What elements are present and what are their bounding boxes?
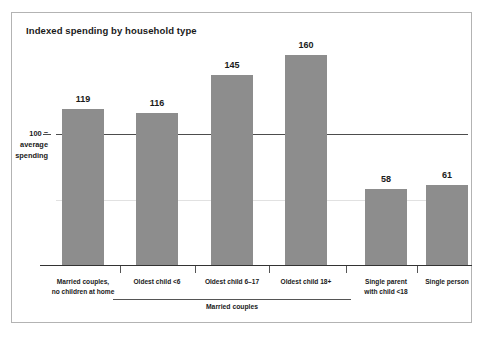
chart-figure: Indexed spending by household type 100 =…: [0, 0, 485, 339]
category-label-oldest-child-18-plus: Oldest child 18+: [266, 277, 346, 287]
bar-value-label: 58: [356, 174, 416, 184]
bar-value-label: 145: [202, 60, 262, 70]
bar-oldest-child-18-plus[interactable]: [285, 55, 327, 265]
category-label-line-2: with child <18: [346, 287, 426, 297]
category-label-oldest-child-6-17: Oldest child 6–17: [192, 277, 272, 287]
bar-value-label: 116: [127, 98, 187, 108]
bar-single-parent-with-child-under-18[interactable]: [365, 189, 407, 265]
y-axis-caption: 100 = average spending: [14, 128, 48, 161]
chart-title: Indexed spending by household type: [26, 25, 197, 36]
category-label-line-2: no children at home: [43, 287, 123, 297]
category-label-oldest-child-under-6: Oldest child <6: [117, 277, 197, 287]
reference-line-100: [56, 134, 468, 135]
category-label-married-couples-no-children: Married couples, no children at home: [43, 277, 123, 296]
bar-value-label: 119: [53, 94, 113, 104]
category-label-line-1: Oldest child 18+: [266, 277, 346, 287]
y-axis-caption-line-3: spending: [14, 150, 48, 161]
bar-oldest-child-under-6[interactable]: [136, 113, 178, 265]
bar-married-couples-no-children[interactable]: [62, 109, 104, 265]
category-label-line-1: Oldest child 6–17: [192, 277, 272, 287]
group-bracket-label: Married couples: [113, 303, 351, 310]
category-label-single-person: Single person: [407, 277, 485, 287]
category-separator-tick: [195, 266, 196, 273]
category-label-line-1: Married couples,: [43, 277, 123, 287]
bar-single-person[interactable]: [426, 185, 468, 265]
category-separator-tick: [417, 266, 418, 273]
bar-value-label: 160: [276, 40, 336, 50]
group-bracket-line: [113, 299, 351, 300]
bar-oldest-child-6-17[interactable]: [211, 75, 253, 265]
category-separator-tick: [346, 266, 347, 273]
category-separator-tick: [120, 266, 121, 273]
reference-line-tick: [43, 134, 51, 135]
y-axis-caption-line-2: average: [14, 139, 48, 150]
bar-value-label: 61: [417, 170, 477, 180]
category-separator-tick: [269, 266, 270, 273]
x-axis-line: [40, 265, 472, 266]
category-label-line-1: Single person: [407, 277, 485, 287]
plot-area: 119 116 145 160 58 61 Married couples, n…: [56, 40, 468, 266]
category-label-line-1: Oldest child <6: [117, 277, 197, 287]
